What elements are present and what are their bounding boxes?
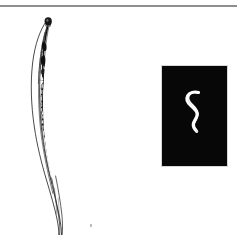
panel-darkfield-photo [161,65,228,167]
body-outline [31,21,61,235]
darkfield-photomicrograph-graphic [162,66,227,166]
darkfield-background [162,66,227,166]
panel-line-drawing [8,10,118,235]
nematode-line-drawing-graphic [8,10,118,235]
figure-plate: Nematode figure plate [0,0,237,237]
header-rule [0,5,237,7]
dust-speck [90,224,92,227]
head-bulb [45,17,52,26]
